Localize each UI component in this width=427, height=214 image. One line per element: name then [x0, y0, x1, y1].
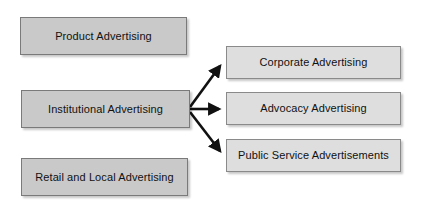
node-institutional-advertising[interactable]: Institutional Advertising — [21, 90, 190, 128]
node-label-institutional-advertising: Institutional Advertising — [48, 103, 163, 115]
arrow-to-corporate-advertising — [190, 66, 220, 107]
node-retail-and-local-advertising[interactable]: Retail and Local Advertising — [21, 158, 188, 196]
node-corporate-advertising[interactable]: Corporate Advertising — [226, 46, 401, 79]
node-advocacy-advertising[interactable]: Advocacy Advertising — [226, 92, 401, 125]
node-label-public-service-advertisements: Public Service Advertisements — [238, 149, 389, 161]
node-public-service-advertisements[interactable]: Public Service Advertisements — [226, 139, 401, 172]
node-label-product-advertising: Product Advertising — [55, 30, 152, 42]
node-product-advertising[interactable]: Product Advertising — [20, 17, 187, 55]
advertising-types-diagram: Product Advertising Institutional Advert… — [0, 0, 427, 214]
node-label-corporate-advertising: Corporate Advertising — [260, 56, 368, 68]
node-label-advocacy-advertising: Advocacy Advertising — [260, 102, 367, 114]
node-label-retail-and-local-advertising: Retail and Local Advertising — [35, 171, 174, 183]
arrow-to-public-service-advertisements — [190, 112, 220, 151]
